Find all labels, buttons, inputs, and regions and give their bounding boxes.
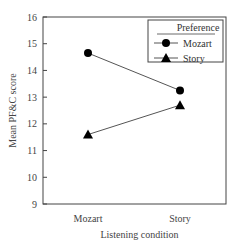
y-axis-title: Mean PF&C score (7, 73, 18, 148)
y-tick-label: 11 (27, 145, 37, 156)
triangle-marker (175, 100, 185, 109)
circle-marker (162, 39, 170, 47)
y-axis: 910111213141516 (27, 12, 47, 210)
triangle-marker (83, 130, 93, 139)
y-tick-label: 9 (32, 199, 37, 210)
legend-title: Preference (177, 22, 220, 33)
y-tick-label: 16 (27, 12, 37, 23)
y-tick-label: 10 (27, 172, 37, 183)
y-tick-label: 12 (27, 118, 37, 129)
circle-marker (84, 49, 92, 57)
series-line (88, 105, 180, 134)
x-axis-title: Listening condition (100, 229, 178, 240)
x-tick-label: Story (169, 213, 191, 224)
y-tick-label: 15 (27, 38, 37, 49)
legend-label: Story (183, 53, 205, 64)
legend-label: Mozart (183, 38, 212, 49)
chart-svg: 910111213141516MozartStoryListening cond… (0, 0, 240, 245)
y-tick-label: 13 (27, 92, 37, 103)
circle-marker (176, 86, 184, 94)
x-tick-label: Mozart (74, 213, 103, 224)
series-story (83, 100, 185, 138)
legend: PreferenceMozartStory (148, 20, 223, 64)
y-tick-label: 14 (27, 65, 37, 76)
x-axis: MozartStory (74, 213, 191, 224)
